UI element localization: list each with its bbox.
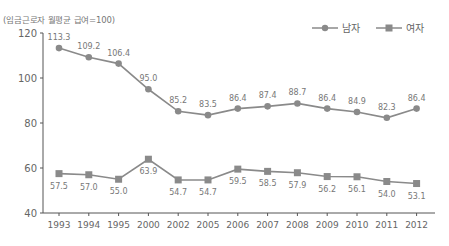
data-point bbox=[354, 173, 361, 180]
data-label: 57.0 bbox=[80, 183, 98, 192]
x-tick-label: 2002 bbox=[167, 220, 190, 230]
x-tick-label: 2009 bbox=[316, 220, 339, 230]
x-tick-label: 1993 bbox=[48, 220, 71, 230]
data-label: 56.1 bbox=[348, 185, 366, 194]
data-label: 56.2 bbox=[318, 185, 336, 194]
data-point bbox=[145, 86, 152, 93]
data-point bbox=[413, 105, 420, 112]
x-tick-label: 2010 bbox=[346, 220, 369, 230]
data-label: 86.4 bbox=[408, 94, 426, 103]
data-label: 86.4 bbox=[318, 94, 336, 103]
data-point bbox=[235, 105, 242, 112]
x-tick-label: 2005 bbox=[197, 220, 220, 230]
data-label: 86.4 bbox=[229, 94, 247, 103]
data-point bbox=[175, 176, 182, 183]
data-point bbox=[384, 115, 391, 122]
data-point bbox=[264, 168, 271, 175]
data-label: 109.2 bbox=[77, 42, 100, 51]
y-tick-label: 120 bbox=[18, 28, 37, 39]
x-tick-label: 1994 bbox=[77, 220, 100, 230]
data-point bbox=[294, 100, 301, 107]
data-point bbox=[354, 109, 361, 116]
data-label: 54.0 bbox=[378, 190, 396, 199]
line-chart: 4060801001201993199419952000200220052006… bbox=[0, 0, 449, 246]
data-label: 95.0 bbox=[139, 74, 157, 83]
data-label: 82.3 bbox=[378, 103, 396, 112]
data-point bbox=[115, 176, 122, 183]
x-tick-label: 2006 bbox=[226, 220, 249, 230]
data-label: 88.7 bbox=[288, 88, 306, 97]
data-label: 63.9 bbox=[139, 167, 157, 176]
data-point bbox=[383, 178, 390, 185]
y-tick-label: 100 bbox=[18, 73, 37, 84]
data-point bbox=[234, 166, 241, 173]
data-label: 113.3 bbox=[48, 33, 71, 42]
x-tick-label: 2000 bbox=[137, 220, 160, 230]
data-point bbox=[205, 112, 212, 119]
data-point bbox=[324, 173, 331, 180]
data-point bbox=[205, 176, 212, 183]
x-tick-label: 2011 bbox=[375, 220, 398, 230]
data-point bbox=[324, 105, 331, 112]
data-point bbox=[85, 171, 92, 178]
data-point bbox=[145, 156, 152, 163]
data-label: 57.5 bbox=[50, 182, 68, 191]
data-label: 54.7 bbox=[169, 188, 187, 197]
data-label: 58.5 bbox=[259, 179, 277, 188]
data-label: 83.5 bbox=[199, 100, 217, 109]
data-label: 57.9 bbox=[288, 181, 306, 190]
data-label: 59.5 bbox=[229, 177, 247, 186]
data-point bbox=[413, 180, 420, 187]
data-point bbox=[294, 169, 301, 176]
y-tick-label: 60 bbox=[24, 163, 37, 174]
data-label: 87.4 bbox=[259, 91, 277, 100]
data-label: 84.9 bbox=[348, 97, 366, 106]
data-point bbox=[56, 45, 63, 52]
data-point bbox=[175, 108, 182, 115]
data-label: 54.7 bbox=[199, 188, 217, 197]
data-label: 106.4 bbox=[107, 49, 130, 58]
data-point bbox=[56, 170, 63, 177]
y-tick-label: 80 bbox=[24, 118, 37, 129]
data-label: 85.2 bbox=[169, 96, 187, 105]
x-tick-label: 2007 bbox=[256, 220, 279, 230]
data-point bbox=[115, 60, 122, 67]
y-tick-label: 40 bbox=[24, 208, 37, 219]
x-tick-label: 1995 bbox=[107, 220, 130, 230]
x-tick-label: 2012 bbox=[405, 220, 428, 230]
data-label: 55.0 bbox=[110, 187, 128, 196]
data-point bbox=[264, 103, 271, 110]
data-label: 53.1 bbox=[408, 192, 426, 201]
data-point bbox=[86, 54, 93, 61]
x-tick-label: 2008 bbox=[286, 220, 309, 230]
